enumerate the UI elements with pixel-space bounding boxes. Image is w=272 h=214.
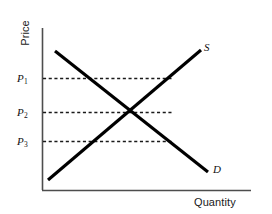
tick-label-p3-base: P [17, 135, 24, 147]
tick-label-p2: P2 [17, 106, 27, 118]
tick-label-p1-subscript: 1 [24, 77, 28, 86]
tick-label-p3-subscript: 3 [24, 140, 28, 149]
tick-label-p2-base: P [17, 106, 24, 118]
chart-canvas [0, 0, 272, 214]
supply-demand-chart: Price Quantity P1 P2 P3 S D [0, 0, 272, 214]
supply-curve [48, 50, 201, 180]
tick-label-p3: P3 [17, 135, 27, 147]
tick-label-p1: P1 [17, 72, 27, 84]
y-axis-title: Price [19, 3, 31, 63]
x-axis-title: Quantity [194, 196, 236, 208]
demand-curve-label: D [213, 163, 221, 175]
supply-curve-label: S [204, 41, 210, 53]
tick-label-p1-base: P [17, 72, 24, 84]
tick-label-p2-subscript: 2 [24, 111, 28, 120]
